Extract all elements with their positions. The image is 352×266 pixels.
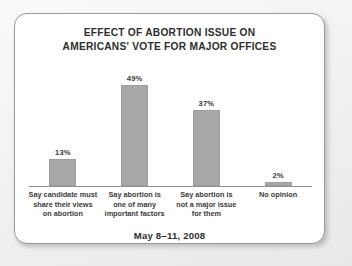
bar-value-label: 13% (55, 148, 71, 157)
bar-rect (121, 85, 148, 186)
bar-rect (49, 159, 76, 186)
chart-title-line-2: AMERICANS' VOTE FOR MAJOR OFFICES (31, 40, 308, 54)
category-label-line: Say abortion is (172, 190, 242, 200)
x-axis-category-labels: Say candidate mustshare their viewson ab… (27, 190, 314, 219)
bar-group: 49% (99, 62, 171, 186)
category-label: No opinion (242, 190, 314, 219)
bar-rect (193, 110, 220, 186)
chart-title: EFFECT OF ABORTION ISSUE ON AMERICANS' V… (15, 14, 324, 53)
category-label-line: share their views (28, 200, 98, 210)
category-label-line: one of many (100, 200, 170, 210)
category-label: Say candidate mustshare their viewson ab… (27, 190, 99, 219)
category-label-line: for them (172, 209, 242, 219)
category-label-line: Say abortion is (100, 190, 170, 200)
chart-title-line-1: EFFECT OF ABORTION ISSUE ON (31, 26, 308, 40)
bar-value-label: 37% (198, 99, 214, 108)
chart-card: EFFECT OF ABORTION ISSUE ON AMERICANS' V… (14, 13, 325, 244)
category-label-line: Say candidate must (28, 190, 98, 200)
bar-series: 13%49%37%2% (27, 62, 314, 186)
bar-group: 37% (171, 62, 243, 186)
category-label-line: important factors (100, 209, 170, 219)
category-label: Say abortion isnot a major issuefor them (171, 190, 243, 219)
bar-value-label: 2% (272, 171, 283, 180)
bar-value-label: 49% (127, 74, 143, 83)
bar-group: 2% (242, 62, 314, 186)
x-axis-line (29, 186, 312, 187)
bar-chart-plot-area: 13%49%37%2% (27, 62, 314, 187)
bar-group: 13% (27, 62, 99, 186)
category-label-line: not a major issue (172, 200, 242, 210)
category-label: Say abortion isone of manyimportant fact… (99, 190, 171, 219)
category-label-line: No opinion (243, 190, 313, 200)
chart-caption: May 8–11, 2008 (15, 230, 324, 241)
category-label-line: on abortion (28, 209, 98, 219)
